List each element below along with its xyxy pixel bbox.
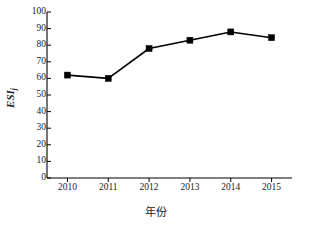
- data-point-marker: [269, 35, 275, 41]
- axis-lines: [47, 12, 292, 178]
- data-point-markers: [64, 29, 274, 81]
- data-point-marker: [187, 37, 193, 43]
- data-point-marker: [105, 75, 111, 81]
- data-line-series: [67, 32, 271, 78]
- data-point-marker: [228, 29, 234, 35]
- axis-ticks: [47, 12, 272, 182]
- plot-area: [0, 0, 311, 228]
- data-point-marker: [146, 46, 152, 52]
- chart-figure: ESIj 0102030405060708090100 201020112012…: [0, 0, 311, 228]
- data-point-marker: [64, 72, 70, 78]
